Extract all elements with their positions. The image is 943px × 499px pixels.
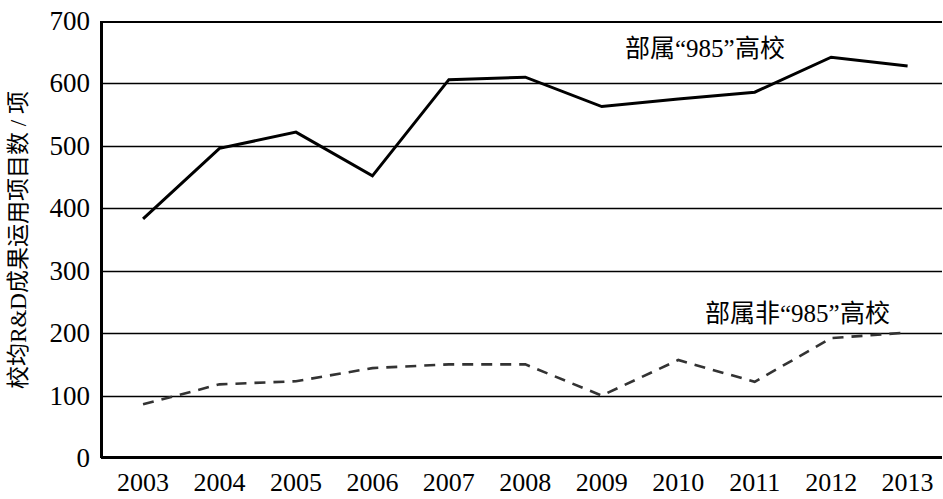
x-tick-label-2007: 2007 bbox=[423, 468, 475, 497]
series-label-non-985: 部属非“985”高校 bbox=[705, 300, 890, 327]
x-tick-label-2010: 2010 bbox=[652, 468, 704, 497]
x-tick-label-2012: 2012 bbox=[805, 468, 857, 497]
x-tick-label-2013: 2013 bbox=[882, 468, 934, 497]
x-tick-label-2011: 2011 bbox=[729, 468, 780, 497]
x-tick-label-group: 2003200420052006200720082009201020112012… bbox=[117, 468, 934, 497]
x-tick-label-2008: 2008 bbox=[499, 468, 551, 497]
x-tick-label-2009: 2009 bbox=[576, 468, 628, 497]
chart-figure: 0100200300400500600700 20032004200520062… bbox=[0, 0, 943, 499]
line-chart: 0100200300400500600700 20032004200520062… bbox=[0, 0, 943, 499]
y-tick-label-700: 700 bbox=[50, 6, 91, 36]
y-axis-title: 校均R&D成果运用项目数 / 项 bbox=[6, 91, 31, 389]
y-tick-label-0: 0 bbox=[77, 443, 91, 473]
x-tick-label-2005: 2005 bbox=[270, 468, 322, 497]
plot-area-background bbox=[101, 21, 942, 458]
x-tick-label-2003: 2003 bbox=[117, 468, 169, 497]
y-tick-label-300: 300 bbox=[50, 256, 91, 286]
series-label-985: 部属“985”高校 bbox=[625, 35, 785, 62]
y-tick-label-600: 600 bbox=[50, 68, 91, 98]
y-tick-label-group: 0100200300400500600700 bbox=[50, 6, 91, 473]
y-tick-label-400: 400 bbox=[50, 193, 91, 223]
y-tick-label-500: 500 bbox=[50, 131, 91, 161]
y-tick-label-200: 200 bbox=[50, 318, 91, 348]
y-tick-label-100: 100 bbox=[50, 381, 91, 411]
x-tick-label-2004: 2004 bbox=[194, 468, 246, 497]
x-tick-label-2006: 2006 bbox=[346, 468, 398, 497]
